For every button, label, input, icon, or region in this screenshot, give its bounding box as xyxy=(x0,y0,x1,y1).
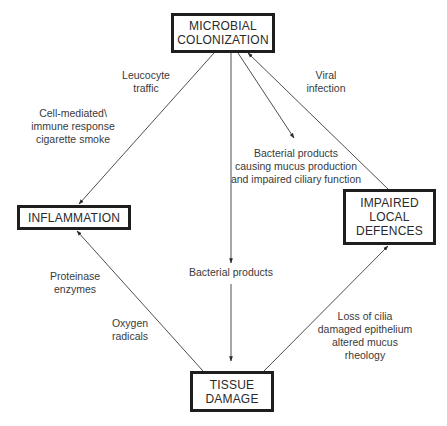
node-microbial-colonization: MICROBIAL COLONIZATION xyxy=(171,13,275,53)
node-inflammation: INFLAMMATION xyxy=(17,205,131,230)
label-oxygen-radicals: Oxygen radicals xyxy=(105,317,155,343)
label-cell-mediated: Cell-mediated\ immune response cigarette… xyxy=(28,107,118,146)
label-bacterial-products-mucus: Bacterial products causing mucus product… xyxy=(230,147,362,186)
arrow-tissue-to-inflammation xyxy=(77,231,203,371)
arrow-colonization-to-impaired xyxy=(238,53,294,138)
label-viral-infection: Viral infection xyxy=(296,69,356,95)
node-impaired-local-defences: IMPAIRED LOCAL DEFENCES xyxy=(343,189,436,245)
node-tissue-damage: TISSUE DAMAGE xyxy=(190,371,274,412)
label-leucocyte-traffic: Leucocyte traffic xyxy=(106,69,186,95)
label-loss-of-cilia: Loss of cilia damaged epithelium altered… xyxy=(315,310,415,362)
label-proteinase-enzymes: Proteinase enzymes xyxy=(45,270,105,296)
label-bacterial-products: Bacterial products xyxy=(183,266,279,279)
